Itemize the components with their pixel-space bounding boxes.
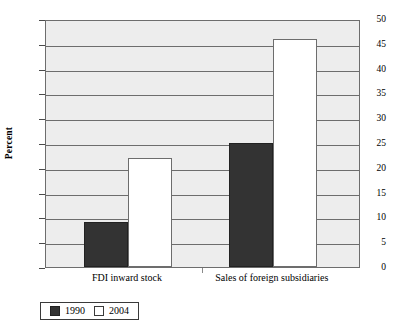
bar-chart-figure: Percent 50454035302520151050 FDI inward … — [0, 0, 395, 333]
y-tick-label-15: 15 — [357, 189, 395, 198]
legend-item-1990: 1990 — [50, 306, 85, 316]
y-tick-label-10: 10 — [357, 213, 395, 222]
chart-legend: 19902004 — [40, 302, 139, 320]
y-tick-0 — [39, 268, 45, 269]
bar-1990-2 — [229, 143, 273, 267]
legend-swatch-icon-2004 — [94, 306, 104, 316]
legend-swatch-icon-1990 — [50, 306, 60, 316]
bar-2004-1 — [128, 158, 172, 267]
y-tick-label-40: 40 — [357, 65, 395, 74]
category-label-2: Sales of foreign subsidiaries — [172, 272, 372, 283]
y-tick-label-30: 30 — [357, 114, 395, 123]
y-tick-label-5: 5 — [357, 238, 395, 247]
y-tick-label-50: 50 — [357, 15, 395, 24]
y-tick-label-20: 20 — [357, 164, 395, 173]
legend-item-2004: 2004 — [94, 306, 129, 316]
y-tick-label-0: 0 — [357, 263, 395, 272]
bar-2004-2 — [273, 39, 317, 267]
y-tick-label-25: 25 — [357, 139, 395, 148]
y-axis-title: Percent — [2, 108, 16, 178]
bar-1990-1 — [84, 222, 128, 267]
plot-area — [45, 20, 360, 268]
legend-label-1990: 1990 — [65, 306, 85, 316]
y-tick-label-35: 35 — [357, 89, 395, 98]
legend-label-2004: 2004 — [109, 306, 129, 316]
y-axis-title-text: Percent — [4, 127, 14, 159]
y-tick-label-45: 45 — [357, 40, 395, 49]
